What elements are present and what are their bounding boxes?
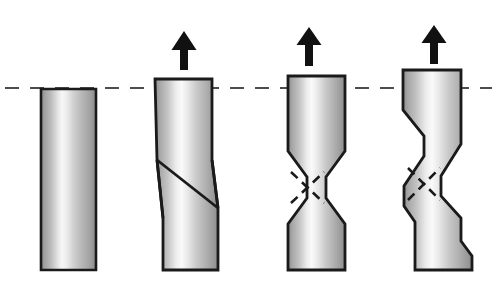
specimen-1-body (41, 89, 96, 270)
specimen-2-body (155, 79, 218, 270)
specimen-1-group (41, 89, 96, 270)
arrow-shaft (305, 43, 313, 66)
arrow-shaft (180, 47, 188, 70)
arrow-shaft (430, 41, 438, 64)
tensile-deformation-figure (0, 0, 497, 288)
figure-canvas (0, 0, 497, 288)
